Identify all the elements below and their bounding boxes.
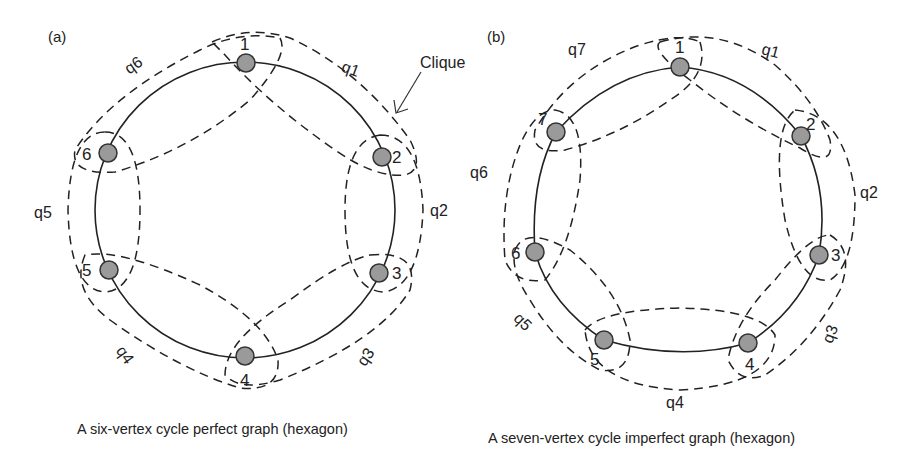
vertex-b-1 bbox=[671, 58, 689, 76]
vertex-b-7 bbox=[547, 123, 565, 141]
panel-b-cycle-edge bbox=[534, 67, 822, 352]
panel-a-caption: A six-vertex cycle perfect graph (hexago… bbox=[77, 421, 348, 437]
panel-a: (a) 1 2 3 4 5 6 q1 q2 q3 q4 q5 bbox=[34, 28, 465, 437]
vertex-b-4 bbox=[739, 334, 757, 352]
panel-b-caption: A seven-vertex cycle imperfect graph (he… bbox=[488, 430, 795, 446]
clique-a-q3-label: q3 bbox=[354, 345, 378, 369]
vertex-a-1 bbox=[237, 54, 255, 72]
vertex-b-6-label: 6 bbox=[511, 244, 520, 263]
clique-annotation-label: Clique bbox=[420, 54, 465, 71]
clique-b-q1-label: q1 bbox=[760, 40, 782, 61]
vertex-a-1-label: 1 bbox=[240, 35, 249, 54]
clique-a-q2-label: q2 bbox=[430, 202, 448, 219]
vertex-a-6-label: 6 bbox=[82, 145, 91, 164]
clique-annotation-arrow-icon bbox=[394, 72, 421, 113]
clique-b-q7-label: q7 bbox=[568, 41, 586, 58]
vertex-a-2 bbox=[373, 148, 391, 166]
clique-a-q1-label: q1 bbox=[339, 58, 362, 80]
cycle-graph-figure: (a) 1 2 3 4 5 6 q1 q2 q3 q4 q5 bbox=[0, 0, 903, 467]
vertex-a-6 bbox=[99, 144, 117, 162]
vertex-a-2-label: 2 bbox=[392, 148, 401, 167]
clique-b-q6-label: q6 bbox=[470, 164, 488, 181]
vertex-a-4-label: 4 bbox=[240, 371, 249, 390]
vertex-b-2-label: 2 bbox=[806, 115, 815, 134]
vertex-b-1-label: 1 bbox=[675, 38, 684, 57]
panel-a-label: (a) bbox=[48, 28, 66, 45]
vertex-b-3 bbox=[810, 246, 828, 264]
clique-b-q4-label: q4 bbox=[666, 394, 684, 411]
panel-b: (b) 1 2 3 4 5 6 7 q1 q2 q bbox=[470, 28, 878, 446]
vertex-b-7-label: 7 bbox=[538, 110, 547, 129]
clique-b-q3-label: q3 bbox=[819, 323, 841, 346]
vertex-b-3-label: 3 bbox=[831, 246, 840, 265]
clique-a-q5-label: q5 bbox=[34, 204, 52, 221]
vertex-b-4-label: 4 bbox=[745, 355, 754, 374]
vertex-a-3-label: 3 bbox=[392, 264, 401, 283]
vertex-a-4 bbox=[236, 347, 254, 365]
vertex-a-5-label: 5 bbox=[82, 261, 91, 280]
vertex-b-6 bbox=[526, 243, 544, 261]
vertex-b-5-label: 5 bbox=[590, 350, 599, 369]
clique-b-q2-label: q2 bbox=[860, 184, 878, 201]
vertex-a-3 bbox=[370, 264, 388, 282]
clique-a-q4-label: q4 bbox=[113, 343, 137, 367]
vertex-a-5 bbox=[100, 261, 118, 279]
clique-b-q5-label: q5 bbox=[511, 309, 536, 334]
vertex-b-5 bbox=[595, 331, 613, 349]
panel-b-label: (b) bbox=[487, 28, 505, 45]
clique-a-q6-label: q6 bbox=[121, 53, 145, 77]
